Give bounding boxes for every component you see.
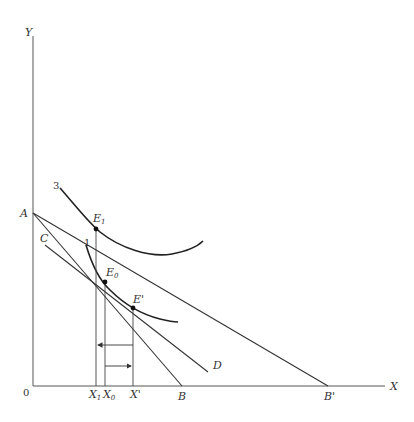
tick-label-X1: X1 — [88, 388, 101, 402]
budget-line-AB — [33, 213, 182, 386]
label-A: A — [19, 207, 28, 220]
origin-label: 0 — [23, 387, 29, 398]
label-C: C — [40, 232, 49, 245]
label-curve-1: 1 — [84, 237, 90, 248]
indifference-curve-3 — [60, 188, 203, 255]
label-D: D — [212, 359, 222, 372]
label-B-prime: B' — [323, 390, 335, 403]
label-E1: E1 — [92, 212, 106, 226]
budget-line-AB-prime — [33, 213, 328, 386]
point-E0 — [103, 280, 108, 285]
compensating-line-CD — [45, 245, 208, 372]
label-E-prime: E' — [132, 293, 144, 306]
x-axis-label: X — [389, 380, 399, 393]
label-E0: E0 — [105, 266, 119, 280]
tick-label-X-prime: X' — [129, 388, 141, 401]
label-B: B — [177, 390, 186, 403]
point-E-prime — [131, 306, 136, 311]
label-curve-3: 3 — [53, 180, 59, 191]
indifference-curve-1 — [86, 245, 178, 322]
indifference-curve-diagram: Y X 0 A B B' C D 3 1 E1 E0 E' X1 X0 X' — [0, 0, 414, 422]
tick-label-X0: X0 — [102, 388, 116, 402]
point-E1 — [94, 227, 99, 232]
